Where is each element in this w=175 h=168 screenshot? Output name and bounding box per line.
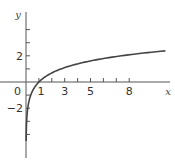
y-tick-label: 2 bbox=[16, 50, 23, 63]
y-axis-label: y bbox=[14, 9, 21, 20]
y-tick-label: −2 bbox=[7, 102, 23, 115]
x-tick-label: 5 bbox=[87, 85, 94, 98]
origin-label: 0 bbox=[14, 85, 21, 98]
log-function-chart: 13582−20xy bbox=[0, 0, 175, 168]
x-tick-label: 3 bbox=[61, 85, 68, 98]
axis-labels: 13582−20xy bbox=[7, 9, 171, 115]
x-tick-label: 1 bbox=[37, 85, 44, 98]
x-tick-label: 8 bbox=[126, 85, 133, 98]
x-axis-label: x bbox=[165, 86, 171, 97]
ln-curve bbox=[26, 51, 165, 141]
